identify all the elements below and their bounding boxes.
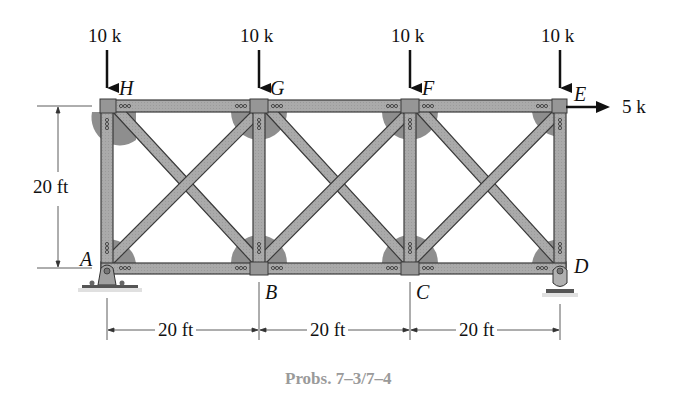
member-BG	[253, 106, 265, 268]
load-arrows	[107, 50, 560, 88]
horizontal-load-arrow-E	[566, 101, 610, 113]
joint-label-H: H	[119, 77, 133, 100]
bottom-chord	[101, 263, 566, 274]
diagonal-members	[101, 106, 566, 268]
joint-label-C: C	[416, 281, 429, 304]
span-label-2: 20 ft	[307, 319, 348, 341]
member-AH	[101, 106, 113, 268]
top-chord	[101, 100, 566, 112]
joint-label-G: G	[270, 77, 284, 100]
joint-label-A: A	[80, 248, 92, 271]
load-label-H: 10 k	[88, 25, 121, 47]
span-label-3: 20 ft	[456, 319, 497, 341]
load-label-horizontal-E: 5 k	[622, 96, 646, 118]
load-label-F: 10 k	[391, 25, 424, 47]
joint-label-F: F	[422, 77, 434, 100]
load-label-G: 10 k	[240, 25, 273, 47]
load-label-E: 10 k	[541, 25, 574, 47]
joint-label-D: D	[574, 255, 588, 278]
span-label-1: 20 ft	[155, 319, 196, 341]
member-CF	[404, 106, 416, 268]
height-dimension-label: 20 ft	[30, 176, 71, 198]
member-DE	[554, 106, 566, 268]
joint-label-B: B	[265, 281, 277, 304]
truss-figure: 10 k 10 k 10 k 10 k 5 k H G F E A B C D …	[0, 0, 682, 399]
figure-caption: Probs. 7–3/7–4	[285, 369, 391, 389]
joint-label-E: E	[574, 83, 586, 106]
